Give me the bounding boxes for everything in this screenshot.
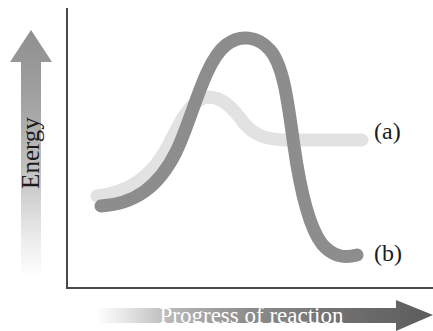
curve-series-b bbox=[101, 38, 357, 257]
series-label-a: (a) bbox=[374, 118, 401, 145]
plot-area bbox=[0, 0, 433, 331]
series-label-a-text: (a) bbox=[374, 118, 401, 144]
curve-series-a bbox=[97, 97, 362, 196]
x-axis-arrow-icon bbox=[96, 300, 433, 331]
energy-diagram-figure: Energy (a) (b) bbox=[0, 0, 433, 331]
series-label-b-text: (b) bbox=[374, 240, 402, 266]
series-label-b: (b) bbox=[374, 240, 402, 267]
